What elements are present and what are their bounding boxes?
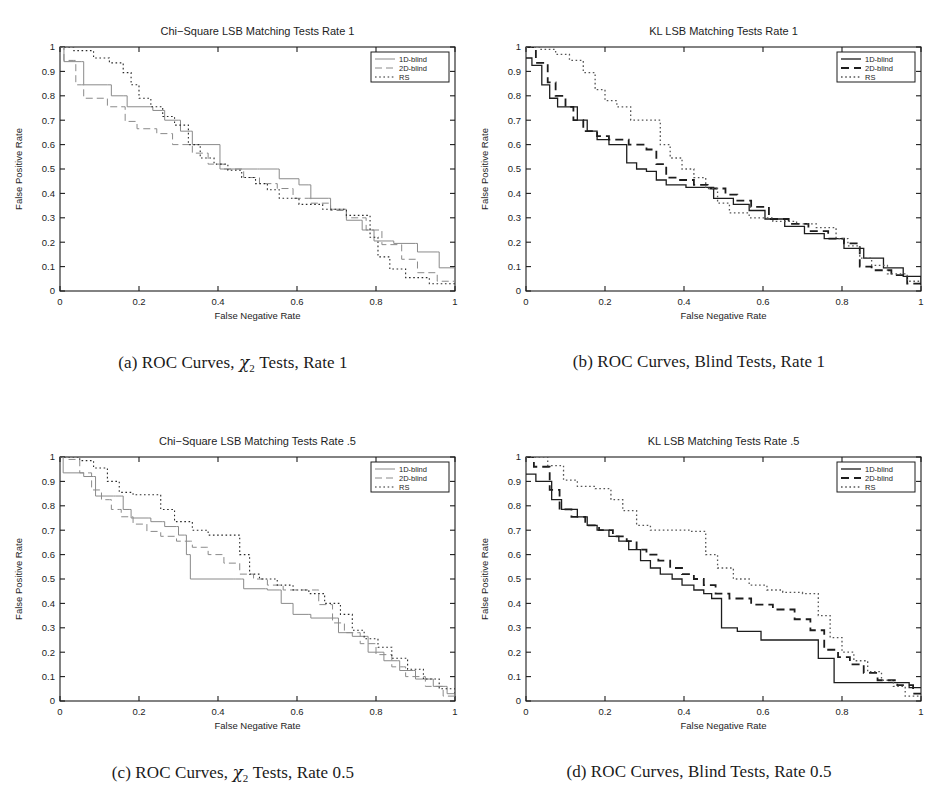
legend-label-1: 1D-blind: [865, 465, 893, 474]
y-ticklabel: 0.5: [508, 163, 521, 174]
roc-chart-b: KL LSB Matching Tests Rate 100.10.20.30.…: [466, 0, 932, 340]
legend-label-1: 1D-blind: [865, 55, 893, 64]
y-ticklabel: 0.9: [508, 476, 521, 487]
x-ticklabel: 0.2: [598, 296, 611, 307]
legend-label-2: 2D-blind: [399, 474, 427, 483]
x-ticklabel: 0: [57, 706, 62, 717]
plot-frame: [526, 457, 921, 701]
legend-label-3: RS: [399, 483, 409, 492]
caption-a-chi-sub: 2: [249, 362, 255, 374]
x-ticklabel: 0.8: [835, 706, 848, 717]
y-ticklabel: 0.8: [42, 90, 55, 101]
chart-b: KL LSB Matching Tests Rate 100.10.20.30.…: [466, 0, 932, 340]
panel-b: KL LSB Matching Tests Rate 100.10.20.30.…: [466, 0, 932, 400]
x-ticklabel: 1: [918, 296, 923, 307]
y-ticklabel: 0.2: [508, 237, 521, 248]
x-ticklabel: 0.4: [677, 706, 690, 717]
y-ticklabel: 0.4: [508, 598, 521, 609]
x-ticklabel: 0.8: [369, 296, 382, 307]
roc-figure-grid: Chi−Square LSB Matching Tests Rate 100.1…: [0, 0, 932, 810]
y-ticklabel: 0.8: [508, 500, 521, 511]
roc-chart-c: Chi−Square LSB Matching Tests Rate .500.…: [0, 410, 466, 750]
y-ticklabel: 1: [516, 41, 521, 52]
y-ticklabel: 0.1: [508, 261, 521, 272]
y-ticklabel: 0.7: [42, 115, 55, 126]
legend-label-3: RS: [399, 73, 409, 82]
x-axis-title: False Negative Rate: [214, 310, 300, 321]
plot-frame: [526, 47, 921, 291]
y-ticklabel: 0.6: [42, 549, 55, 560]
y-ticklabel: 0.5: [42, 163, 55, 174]
caption-b-prefix: (b) ROC Curves, Blind Tests, Rate 1: [573, 352, 825, 371]
x-ticklabel: 0.4: [211, 706, 224, 717]
y-ticklabel: 0.3: [42, 212, 55, 223]
chart-d: KL LSB Matching Tests Rate .500.10.20.30…: [466, 410, 932, 750]
chart-title: Chi−Square LSB Matching Tests Rate .5: [159, 435, 356, 447]
x-ticklabel: 0.6: [290, 706, 303, 717]
y-axis-title: False Positive Rate: [479, 538, 490, 620]
panel-a: Chi−Square LSB Matching Tests Rate 100.1…: [0, 0, 466, 400]
legend-label-3: RS: [865, 73, 875, 82]
legend-label-2: 2D-blind: [865, 474, 893, 483]
chart-c: Chi−Square LSB Matching Tests Rate .500.…: [0, 410, 466, 750]
chart-title: Chi−Square LSB Matching Tests Rate 1: [161, 25, 355, 37]
series-group: [526, 47, 921, 286]
series-group: [60, 457, 455, 696]
caption-a-prefix: (a) ROC Curves,: [118, 353, 234, 372]
y-ticklabel: 0.3: [508, 622, 521, 633]
y-axis-title: False Positive Rate: [13, 128, 24, 210]
legend-label-2: 2D-blind: [399, 64, 427, 73]
x-ticklabel: 0.2: [132, 706, 145, 717]
y-ticklabel: 0.4: [42, 598, 55, 609]
y-ticklabel: 0.4: [508, 188, 521, 199]
x-ticklabel: 0.6: [290, 296, 303, 307]
x-ticklabel: 0: [57, 296, 62, 307]
y-ticklabel: 0.9: [508, 66, 521, 77]
chart-title: KL LSB Matching Tests Rate 1: [649, 25, 798, 37]
x-axis-title: False Negative Rate: [680, 310, 766, 321]
caption-c: (c) ROC Curves, χ2 Tests, Rate 0.5: [0, 762, 466, 784]
y-ticklabel: 0: [516, 695, 521, 706]
caption-c-chi: χ: [232, 762, 242, 782]
curve-1d-blind: [526, 474, 921, 687]
panel-d: KL LSB Matching Tests Rate .500.10.20.30…: [466, 410, 932, 810]
y-axis-title: False Positive Rate: [479, 128, 490, 210]
y-ticklabel: 0.2: [42, 237, 55, 248]
x-ticklabel: 0: [523, 296, 528, 307]
curve-1d-blind: [60, 457, 455, 694]
y-ticklabel: 0.9: [42, 66, 55, 77]
panel-c: Chi−Square LSB Matching Tests Rate .500.…: [0, 410, 466, 810]
legend-label-1: 1D-blind: [399, 465, 427, 474]
curve-rs: [60, 457, 455, 694]
legend-label-1: 1D-blind: [399, 55, 427, 64]
x-axis-title: False Negative Rate: [214, 720, 300, 731]
y-ticklabel: 0.2: [42, 647, 55, 658]
x-ticklabel: 1: [452, 706, 457, 717]
x-ticklabel: 0.2: [132, 296, 145, 307]
y-ticklabel: 1: [516, 451, 521, 462]
y-ticklabel: 1: [50, 451, 55, 462]
caption-d-prefix: (d) ROC Curves, Blind Tests, Rate 0.5: [566, 762, 831, 781]
legend-label-3: RS: [865, 483, 875, 492]
y-ticklabel: 0: [516, 285, 521, 296]
y-ticklabel: 0.7: [508, 115, 521, 126]
curve-1d-blind: [60, 47, 455, 286]
y-ticklabel: 0.6: [42, 139, 55, 150]
x-ticklabel: 0: [523, 706, 528, 717]
y-ticklabel: 0: [50, 285, 55, 296]
x-ticklabel: 0.4: [677, 296, 690, 307]
series-group: [526, 457, 921, 700]
y-ticklabel: 0.8: [42, 500, 55, 511]
caption-b: (b) ROC Curves, Blind Tests, Rate 1: [466, 352, 932, 372]
y-ticklabel: 0.1: [42, 261, 55, 272]
x-ticklabel: 0.6: [756, 296, 769, 307]
y-ticklabel: 0.2: [508, 647, 521, 658]
y-axis-title: False Positive Rate: [13, 538, 24, 620]
caption-a: (a) ROC Curves, χ2 Tests, Rate 1: [0, 352, 466, 374]
chart-a: Chi−Square LSB Matching Tests Rate 100.1…: [0, 0, 466, 340]
y-ticklabel: 0.1: [42, 671, 55, 682]
x-ticklabel: 0.2: [598, 706, 611, 717]
roc-chart-a: Chi−Square LSB Matching Tests Rate 100.1…: [0, 0, 466, 340]
y-ticklabel: 0.1: [508, 671, 521, 682]
y-ticklabel: 0.8: [508, 90, 521, 101]
